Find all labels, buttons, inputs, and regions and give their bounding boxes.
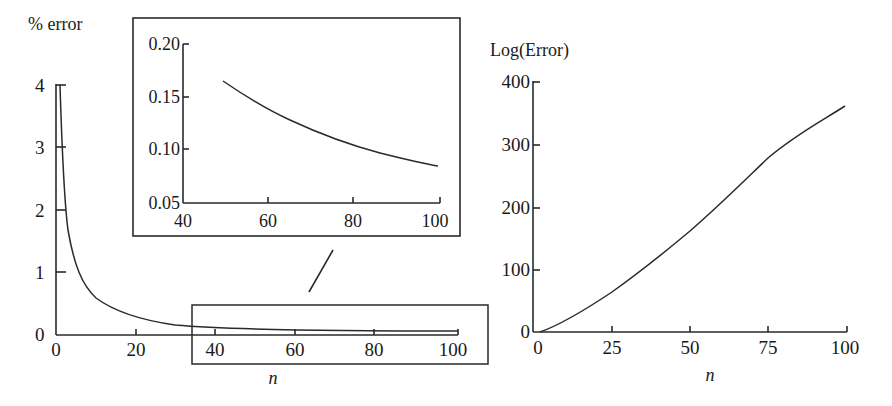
inset-x-tick-label: 80 (344, 211, 362, 231)
left-x-tick-label: 80 (365, 339, 384, 360)
inset-y-tick-label: 0.10 (149, 139, 181, 159)
left-y-axis-title: % error (28, 14, 82, 34)
inset-x-tick-label: 100 (422, 211, 449, 231)
left-x-ticks: 0 20 40 60 80 100 (51, 329, 467, 360)
right-y-axis-title: Log(Error) (490, 40, 569, 61)
right-y-tick-label: 200 (502, 197, 531, 218)
left-x-tick-label: 100 (439, 339, 468, 360)
left-x-axis-title: n (269, 368, 278, 388)
log-error-curve (540, 106, 845, 332)
right-y-tick-label: 300 (502, 134, 531, 155)
left-x-tick-label: 60 (286, 339, 305, 360)
inset-y-tick-label: 0.20 (149, 34, 181, 54)
right-y-tick-label: 100 (502, 259, 531, 280)
left-x-tick-label: 20 (127, 339, 146, 360)
right-y-tick-label: 0 (521, 321, 531, 342)
left-y-tick-label: 2 (35, 200, 45, 221)
figure: % error 4 3 2 1 0 0 20 40 60 80 (0, 0, 892, 406)
inset-x-tick-label: 60 (259, 211, 277, 231)
inset-y-tick-label: 0.15 (149, 87, 181, 107)
left-y-tick-label: 0 (35, 324, 45, 345)
left-y-tick-label: 1 (35, 262, 45, 283)
inset-x-tick-label: 40 (174, 211, 192, 231)
right-x-tick-label: 0 (533, 337, 543, 358)
right-x-ticks: 0 25 50 75 100 (533, 326, 859, 358)
inset-y-tick-label: 0.05 (149, 193, 181, 213)
inset-connector-line (309, 250, 333, 292)
left-x-tick-label: 40 (206, 339, 225, 360)
right-x-tick-label: 100 (831, 337, 860, 358)
right-x-tick-label: 25 (603, 337, 622, 358)
right-chart: Log(Error) 400 300 200 100 0 0 25 50 75 … (490, 40, 859, 385)
left-y-tick-label: 4 (35, 75, 45, 96)
right-y-tick-label: 400 (502, 71, 531, 92)
inset-chart: 0.20 0.15 0.10 0.05 40 60 80 100 (133, 18, 460, 236)
right-x-axis-title: n (706, 365, 715, 385)
right-y-ticks: 400 300 200 100 0 (502, 71, 541, 342)
left-x-tick-label: 0 (51, 339, 61, 360)
right-x-tick-label: 75 (759, 337, 778, 358)
right-x-tick-label: 50 (681, 337, 700, 358)
left-y-tick-label: 3 (35, 137, 45, 158)
